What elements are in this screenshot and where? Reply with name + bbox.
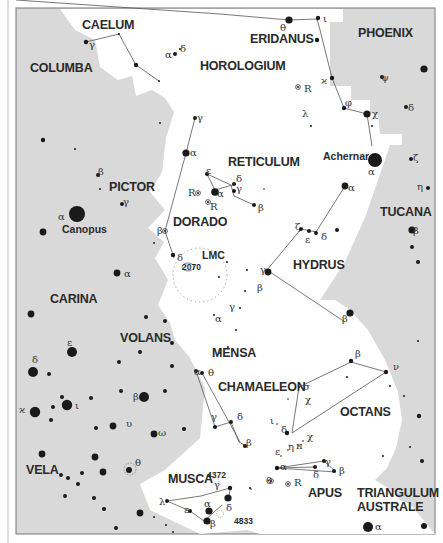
star-label: ι xyxy=(270,415,274,426)
star-label: α xyxy=(190,147,197,158)
star-label: θ xyxy=(208,367,214,378)
star-label: ψ xyxy=(381,72,389,83)
star-label: α xyxy=(375,521,382,532)
label-reticulum: RETICULUM xyxy=(228,155,300,169)
label-octans: OCTANS xyxy=(340,405,391,419)
star-label: α xyxy=(215,313,222,324)
star-label: α xyxy=(204,498,211,509)
star-label: R xyxy=(188,187,196,198)
star-label: η xyxy=(417,181,423,192)
label-lmc: LMC xyxy=(202,249,225,261)
star-label: θ xyxy=(280,22,286,33)
star-label: θ xyxy=(266,475,272,486)
star-label: δ xyxy=(177,252,183,263)
star-label: α xyxy=(124,268,131,279)
star-label: α xyxy=(368,166,375,177)
star-label: ν xyxy=(393,361,399,372)
star-label: γ xyxy=(123,196,129,207)
star-label: δ xyxy=(180,43,186,54)
label-dorado: DORADO xyxy=(173,215,228,229)
star-label: ϰ xyxy=(321,75,327,86)
label-volans: VOLANS xyxy=(120,331,171,345)
star-label: γ xyxy=(214,479,220,490)
star-label: γ xyxy=(325,456,331,467)
star-label: ζ xyxy=(295,221,301,232)
star-label: λ xyxy=(159,496,166,507)
label-pictor: PICTOR xyxy=(109,180,155,194)
star-label: R xyxy=(294,477,302,488)
label-vela: VELA xyxy=(26,463,59,477)
star-label: β xyxy=(257,282,263,293)
label-mensa: MENSA xyxy=(212,346,256,360)
star-label: δ xyxy=(408,102,414,113)
label-ngc2070: 2070 xyxy=(182,262,201,272)
star-label: δ xyxy=(237,411,243,422)
star-label: δ xyxy=(321,231,327,242)
star-label: ζ xyxy=(413,152,419,163)
star-label: ι xyxy=(75,400,79,411)
star-label: χ xyxy=(307,431,313,442)
star-label: γ xyxy=(197,112,203,123)
star-label: γ xyxy=(236,183,242,194)
label-horologium: HOROLOGIUM xyxy=(200,59,286,73)
star-label: β xyxy=(258,202,264,213)
star-label: R xyxy=(210,201,218,212)
label-canopus: Canopus xyxy=(62,223,107,235)
label-tucana: TUCANA xyxy=(380,205,432,219)
star-label: ε xyxy=(206,165,211,176)
label-columba: COLUMBA xyxy=(30,61,93,75)
label-apus: APUS xyxy=(308,486,342,500)
star-label: δ xyxy=(226,502,232,513)
star-label: γ xyxy=(89,39,95,50)
star-label: σ xyxy=(303,381,310,392)
star-label: γ xyxy=(211,411,217,422)
star-label: β xyxy=(342,313,348,324)
star-label: α xyxy=(58,211,65,222)
label-triangulum-australe: TRIANGULUM xyxy=(357,486,439,500)
star-label: ε xyxy=(184,504,189,515)
star-label: α xyxy=(217,188,224,199)
star-label: φ xyxy=(345,97,352,108)
star-label: ε xyxy=(67,337,72,348)
star-label: δ xyxy=(313,469,319,480)
star-label: ε xyxy=(305,234,310,245)
star-label: θ xyxy=(135,457,141,468)
star-label: β xyxy=(355,348,361,359)
label-ngc4833: 4833 xyxy=(234,516,253,526)
star-label: β xyxy=(157,225,163,236)
star-label: χ xyxy=(305,394,311,405)
star-label: γ xyxy=(229,301,235,312)
star-label: υ xyxy=(126,418,132,429)
star-label: α xyxy=(348,182,355,193)
label-carina: CARINA xyxy=(50,292,98,306)
label-caelum: CAELUM xyxy=(82,18,134,32)
star-label: α xyxy=(280,461,287,472)
star-label: α xyxy=(194,366,201,377)
star-label: γ xyxy=(260,264,266,275)
label-eridanus: ERIDANUS xyxy=(250,32,314,46)
star-label: ϰ xyxy=(19,404,25,415)
label-phoenix: PHOENIX xyxy=(358,26,414,40)
star-label: β xyxy=(339,465,345,476)
star-label: ε xyxy=(275,446,280,457)
star-label: ω xyxy=(158,427,166,438)
star-label: R xyxy=(304,83,312,94)
star-label: ι xyxy=(323,13,327,24)
star-label: π xyxy=(296,440,303,451)
star-label: λ xyxy=(302,108,309,119)
star-label: α xyxy=(165,49,172,60)
label-triangulum-australe-2: AUSTRALE xyxy=(357,500,423,514)
star-label: η xyxy=(288,441,294,452)
label-hydrus: HYDRUS xyxy=(293,258,345,272)
star-label: δ xyxy=(32,354,38,365)
star-label: β xyxy=(246,437,252,448)
star-label: χ xyxy=(372,108,378,119)
star-label: β xyxy=(210,518,216,529)
star-label: β xyxy=(98,166,104,177)
label-achernar: Achernar xyxy=(323,150,369,162)
star-label: β xyxy=(133,391,139,402)
star-label: δ xyxy=(281,424,287,435)
star-chart: CAELUM COLUMBA ERIDANUS PHOENIX HOROLOGI… xyxy=(0,0,443,543)
label-chamaeleon: CHAMAELEON xyxy=(218,380,306,394)
star-label: β xyxy=(413,225,419,236)
